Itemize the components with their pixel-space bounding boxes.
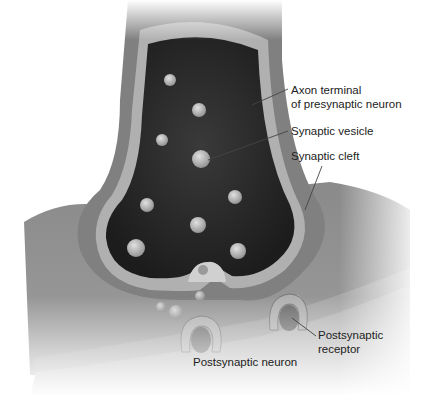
label-synaptic-cleft: Synaptic cleft (291, 149, 359, 163)
label-axon-terminal: Axon terminal of presynaptic neuron (291, 83, 402, 111)
label-synaptic-vesicle: Synaptic vesicle (291, 124, 373, 138)
label-postsynaptic-receptor: Postsynaptic receptor (318, 328, 383, 356)
label-postsynaptic-neuron: Postsynaptic neuron (193, 355, 297, 369)
